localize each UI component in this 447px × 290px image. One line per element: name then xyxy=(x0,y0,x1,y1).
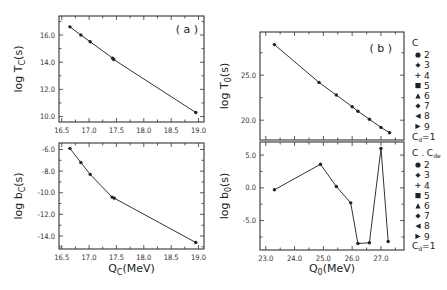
data-line xyxy=(70,148,196,242)
data-point xyxy=(388,131,391,134)
square-marker-icon xyxy=(415,83,420,88)
data-point xyxy=(335,185,338,188)
circle-marker-icon xyxy=(415,162,420,167)
data-point xyxy=(194,111,197,114)
legend-item-label: 4 xyxy=(424,71,430,81)
data-line xyxy=(274,149,388,244)
y-tick-label: 0.0 xyxy=(245,183,256,192)
y-tick-label: 25.0 xyxy=(241,71,256,80)
plot-frame xyxy=(59,143,204,249)
square-marker-icon xyxy=(415,193,420,198)
x-axis-title: Q0(MeV) xyxy=(309,262,355,277)
data-point xyxy=(273,43,276,46)
y-axis-title: log bC(s) xyxy=(12,172,27,219)
triangle-left-marker-icon xyxy=(415,224,420,229)
data-point xyxy=(356,110,359,113)
data-point xyxy=(68,25,71,28)
x-tick-label: 17.0 xyxy=(82,253,97,262)
data-point xyxy=(386,240,389,243)
x-tick-label: 17.5 xyxy=(109,253,124,262)
chart-b-bottom: 23.024.025.026.027.0-5.00.05.0log b0(s)Q… xyxy=(218,142,404,277)
data-point xyxy=(273,188,276,191)
legend-item-label: 2 xyxy=(424,50,430,60)
y-tick-label: -12.0 xyxy=(38,210,55,219)
data-line xyxy=(70,27,196,113)
legend-item-label: 7 xyxy=(424,101,430,111)
x-tick-label: 24.0 xyxy=(287,254,302,263)
x-tick-label: 17.5 xyxy=(109,126,124,135)
x-tick-label: 23.0 xyxy=(258,254,273,263)
data-point xyxy=(113,196,116,199)
data-point xyxy=(88,173,91,176)
diamond-marker-icon xyxy=(415,103,420,108)
panel-b-label: ( b ) xyxy=(369,42,392,55)
legend-item-label: 6 xyxy=(424,201,430,211)
x-tick-label: 27.0 xyxy=(373,254,388,263)
legend-item-label: 3 xyxy=(424,170,430,180)
data-point xyxy=(379,126,382,129)
legend-title: C xyxy=(412,38,418,48)
data-point xyxy=(379,147,382,150)
legend-item-label: 9 xyxy=(424,122,430,132)
y-tick-label: 20.0 xyxy=(241,116,256,125)
legend-item-label: 7 xyxy=(424,211,430,221)
data-point xyxy=(88,40,91,43)
y-tick-label: 10.0 xyxy=(40,112,55,121)
plus-marker-icon xyxy=(415,183,420,188)
data-point xyxy=(319,163,322,166)
legend-footer: Cd=1 xyxy=(412,241,435,252)
x-tick-label: 16.5 xyxy=(54,253,69,262)
data-line xyxy=(274,45,389,133)
triangle-up-marker-icon xyxy=(415,203,420,208)
y-tick-label: -6.0 xyxy=(42,145,55,154)
y-tick-label: -10.0 xyxy=(38,188,55,197)
legend-item-label: 2 xyxy=(424,160,430,170)
plus-marker-icon xyxy=(415,73,420,78)
data-point xyxy=(79,33,82,36)
legend-bottom: C . Cde23456789Cd=1 xyxy=(412,148,441,252)
y-tick-label: -8.0 xyxy=(42,167,55,176)
chart-a-bottom: 16.517.017.518.018.519.0-14.0-12.0-10.0-… xyxy=(12,143,206,277)
legends-group: C23456789Cd=1C . Cde23456789Cd=1 xyxy=(412,38,441,252)
y-tick-label: 16.0 xyxy=(40,31,55,40)
y-axis-title: log b0(s) xyxy=(218,173,233,220)
y-tick-label: 5.0 xyxy=(245,151,256,160)
x-tick-label: 19.0 xyxy=(191,253,206,262)
y-axis-title: log TC(s) xyxy=(12,46,27,93)
y-axis-title: log T0(s) xyxy=(218,63,233,109)
legend-item-label: 6 xyxy=(424,91,430,101)
legend-item-label: 8 xyxy=(424,221,430,231)
data-point xyxy=(317,81,320,84)
legend-item-label: 3 xyxy=(424,60,430,70)
x-tick-label: 16.5 xyxy=(54,126,69,135)
panel-a-label: ( a ) xyxy=(176,23,198,36)
circle-marker-icon xyxy=(415,52,420,57)
plots-group: 16.517.017.518.018.519.010.012.014.016.0… xyxy=(12,16,404,277)
x-tick-label: 17.0 xyxy=(82,126,97,135)
y-tick-label: -14.0 xyxy=(38,232,55,241)
x-tick-label: 18.5 xyxy=(164,126,179,135)
data-point xyxy=(335,93,338,96)
triangle-up-marker-icon xyxy=(415,93,420,98)
x-tick-label: 18.0 xyxy=(136,253,151,262)
legend-item-label: 5 xyxy=(424,81,430,91)
legend-item-label: 4 xyxy=(424,181,430,191)
diamond-marker-icon xyxy=(415,213,420,218)
legend-item-label: 5 xyxy=(424,191,430,201)
legend-item-label: 8 xyxy=(424,111,430,121)
data-point xyxy=(356,242,359,245)
y-tick-label: 14.0 xyxy=(40,58,55,67)
triangle-left-marker-icon xyxy=(415,114,420,119)
legend-footer: Cd=1 xyxy=(412,132,435,143)
triangle-right-marker-icon xyxy=(415,234,420,239)
data-point xyxy=(112,58,115,61)
x-tick-label: 19.0 xyxy=(191,126,206,135)
legend-top: C23456789Cd=1 xyxy=(412,38,435,143)
y-tick-label: -5.0 xyxy=(243,216,256,225)
data-point xyxy=(79,161,82,164)
y-tick-label: 12.0 xyxy=(40,85,55,94)
data-point xyxy=(368,118,371,121)
x-tick-label: 18.5 xyxy=(164,253,179,262)
data-point xyxy=(350,105,353,108)
x-axis-title: QC(MeV) xyxy=(108,262,155,277)
